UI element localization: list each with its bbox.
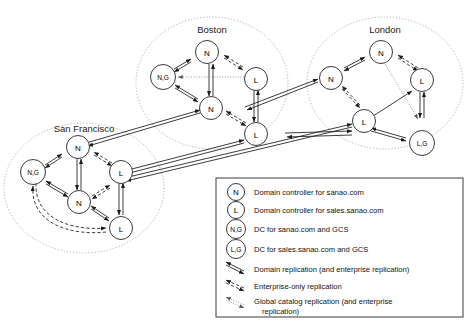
legend-panel: N Domain controller for sanao.com L Doma…	[216, 178, 463, 317]
link-sf-ng-ntop	[45, 154, 62, 165]
node-boston-n-mid[interactable]: N	[200, 97, 223, 120]
node-label: L	[420, 77, 425, 86]
node-label: N,G	[27, 169, 39, 176]
node-london-lg[interactable]: L,G	[410, 131, 435, 156]
link-sf-ntop-ng	[45, 157, 62, 168]
legend-entry-text: Domain replication (and enterprise repli…	[254, 265, 410, 274]
link-sf-lbottom-nmid	[91, 206, 109, 218]
node-london-l-right[interactable]: L	[411, 69, 434, 92]
node-sf-ng[interactable]: N,G	[21, 160, 46, 185]
link-lon-ntop-nleft	[344, 60, 365, 71]
link-sf-lright-nmid	[92, 188, 110, 199]
link-lon-lmid-lg	[371, 131, 406, 141]
replication-topology-diagram: Boston London San Francisco	[0, 0, 468, 324]
link-boston-l-to-sf-l	[126, 143, 244, 174]
node-label: N	[204, 49, 210, 58]
link-london-l-to-boston-l	[287, 135, 352, 137]
link-bos-ng-ntop	[174, 59, 191, 69]
node-sf-l-right[interactable]: L	[110, 161, 133, 184]
node-london-n-left[interactable]: N	[320, 67, 343, 90]
node-london-n-top[interactable]: N	[370, 41, 393, 64]
legend-entry-text: Enterprise-only replication	[254, 282, 342, 291]
legend-entry-text: Global catalog replication (and enterpri…	[254, 297, 392, 306]
link-bos-lbottom-nmid	[226, 111, 246, 123]
legend-entry-text-continuation: replication)	[262, 307, 300, 316]
legend-symbol-label: L,G	[231, 246, 242, 253]
link-sf-nmid-ng	[46, 181, 68, 194]
link-boston-l-to-london-l	[285, 131, 352, 133]
node-label: N	[75, 144, 81, 153]
node-label: L,G	[417, 140, 428, 147]
legend-entry-text: DC for sales.sanao.com and GCS	[254, 245, 368, 254]
node-label: L	[362, 118, 367, 127]
site-label-london: London	[369, 24, 401, 35]
site-label-boston: Boston	[197, 24, 227, 35]
node-label: N	[208, 105, 214, 114]
link-sf-ng-nmid	[46, 184, 68, 197]
node-label: L	[119, 225, 124, 234]
link-sf-lright-ntop	[94, 152, 112, 163]
link-sf-nmid-lbottom	[91, 209, 109, 221]
node-label: N	[76, 199, 82, 208]
legend-entry-text: Domain controller for sanao.com	[254, 188, 364, 197]
node-sf-n-mid[interactable]: N	[68, 191, 91, 214]
legend-symbol-n: N	[228, 184, 245, 201]
node-boston-l-right[interactable]: L	[245, 68, 268, 91]
link-sf-ntop-lright	[94, 155, 112, 166]
link-lon-nleft-ntop	[344, 57, 365, 68]
link-lon-ntop-lright	[398, 58, 418, 71]
node-boston-l-bottom[interactable]: L	[245, 123, 268, 146]
node-boston-ng[interactable]: N,G	[151, 65, 176, 90]
legend-entry-text: DC for sanao.com and GCS	[254, 225, 349, 234]
legend-symbol-lg: L,G	[227, 240, 246, 259]
link-london-l-to-sf-l	[126, 127, 352, 181]
link-bos-nmid-ng	[175, 85, 198, 99]
node-sf-l-bottom[interactable]: L	[110, 217, 133, 240]
link-bos-nmid-lbottom	[226, 114, 246, 126]
link-bos-ntop-ng	[174, 62, 191, 72]
site-label-sanfrancisco: San Francisco	[54, 123, 115, 134]
legend-entry-text: Domain controller for sales.sanao.com	[254, 206, 384, 215]
link-bos-ntop-lright	[224, 58, 243, 70]
london-internal-links	[342, 55, 424, 141]
legend-symbol-label: N,G	[230, 226, 242, 233]
legend-symbol-l: L	[228, 202, 245, 219]
legend-symbol-label: N	[233, 188, 239, 197]
link-lon-lg-lmid	[371, 128, 406, 138]
node-label: L	[254, 76, 259, 85]
diagram-canvas: Boston London San Francisco	[0, 0, 468, 324]
node-sf-n-top[interactable]: N	[67, 136, 90, 159]
legend-symbol-ng: N,G	[227, 220, 246, 239]
link-bos-ng-nmid	[175, 88, 198, 102]
link-lon-lmid-lright	[370, 91, 412, 118]
node-london-l-mid[interactable]: L	[353, 110, 376, 133]
node-label: N	[378, 49, 384, 58]
node-label: L	[119, 169, 124, 178]
link-lon-lright-ntop	[398, 55, 418, 68]
link-sf-nmid-lright	[92, 185, 110, 196]
node-boston-n-top[interactable]: N	[196, 41, 219, 64]
link-lon-lmid-nleft	[342, 86, 360, 105]
link-bos-lright-ntop	[224, 55, 243, 67]
legend-symbol-label: L	[234, 206, 239, 215]
node-label: L	[254, 131, 259, 140]
node-label: N	[328, 75, 334, 84]
link-lon-nleft-lmid	[342, 89, 360, 108]
node-label: N,G	[157, 74, 169, 81]
